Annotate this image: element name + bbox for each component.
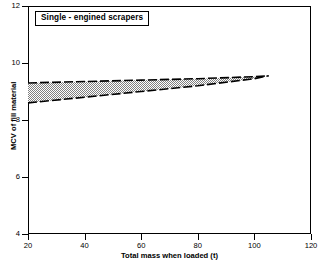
x-tick-60: [141, 234, 142, 240]
chart-title: Single - engined scrapers: [35, 11, 149, 26]
x-tick-label-60: 60: [129, 242, 153, 250]
x-tick-label-40: 40: [73, 242, 97, 250]
y-tick-12: [22, 6, 28, 7]
mcv-range-band: [28, 6, 311, 234]
x-tick-label-100: 100: [242, 242, 266, 250]
x-tick-20: [28, 234, 29, 240]
x-tick-40: [85, 234, 86, 240]
x-tick-label-120: 120: [299, 242, 320, 250]
y-tick-10: [22, 63, 28, 64]
x-axis-label: Total mass when loaded (t): [28, 252, 311, 260]
x-tick-120: [311, 234, 312, 240]
chart-figure: Single - engined scrapers 12 10 8 6 4 20…: [0, 0, 320, 263]
y-tick-label-4: 4: [8, 230, 20, 238]
x-tick-label-20: 20: [16, 242, 40, 250]
x-tick-80: [198, 234, 199, 240]
x-tick-100: [254, 234, 255, 240]
y-axis-label: MCV of fill material: [10, 56, 18, 176]
x-tick-label-80: 80: [186, 242, 210, 250]
y-tick-8: [22, 120, 28, 121]
y-tick-6: [22, 177, 28, 178]
y-tick-label-12: 12: [8, 2, 20, 10]
